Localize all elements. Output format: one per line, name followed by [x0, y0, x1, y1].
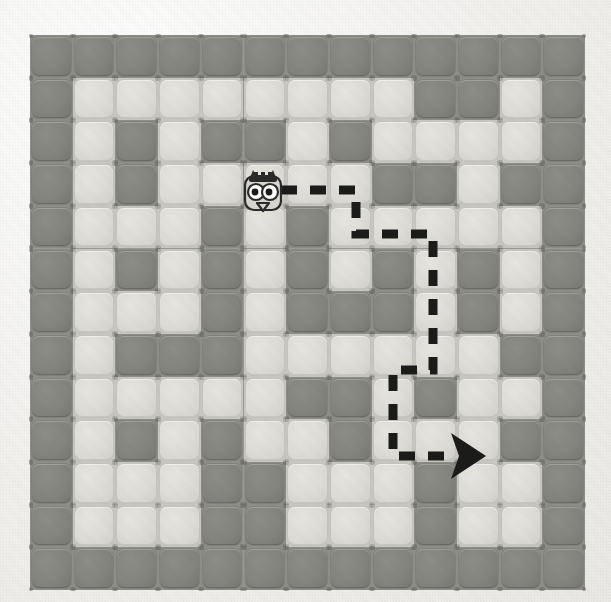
path-tile-r3-c7[interactable]	[329, 163, 372, 206]
path-tile-r3-c5[interactable]	[244, 163, 287, 206]
wall-tile-r12-c0[interactable]	[30, 547, 73, 590]
path-tile-r10-c2[interactable]	[115, 462, 158, 505]
wall-tile-r12-c11[interactable]	[500, 547, 543, 590]
wall-tile-r8-c7[interactable]	[329, 377, 372, 420]
path-tile-r4-c1[interactable]	[73, 206, 116, 249]
path-tile-r8-c10[interactable]	[457, 377, 500, 420]
path-tile-r4-c5[interactable]	[244, 206, 287, 249]
wall-tile-r0-c12[interactable]	[542, 35, 585, 78]
path-tile-r7-c1[interactable]	[73, 334, 116, 377]
wall-tile-r4-c6[interactable]	[286, 206, 329, 249]
path-tile-r10-c8[interactable]	[372, 462, 415, 505]
path-tile-r6-c3[interactable]	[158, 291, 201, 334]
path-tile-r9-c5[interactable]	[244, 419, 287, 462]
path-tile-r7-c6[interactable]	[286, 334, 329, 377]
path-tile-r5-c5[interactable]	[244, 249, 287, 292]
path-tile-r8-c8[interactable]	[372, 377, 415, 420]
wall-tile-r8-c0[interactable]	[30, 377, 73, 420]
path-tile-r1-c8[interactable]	[372, 78, 415, 121]
path-tile-r11-c2[interactable]	[115, 505, 158, 548]
path-tile-r3-c4[interactable]	[201, 163, 244, 206]
path-tile-r2-c10[interactable]	[457, 120, 500, 163]
wall-tile-r10-c9[interactable]	[414, 462, 457, 505]
path-tile-r2-c1[interactable]	[73, 120, 116, 163]
wall-tile-r2-c0[interactable]	[30, 120, 73, 163]
path-tile-r1-c6[interactable]	[286, 78, 329, 121]
wall-tile-r3-c2[interactable]	[115, 163, 158, 206]
wall-tile-r7-c12[interactable]	[542, 334, 585, 377]
path-tile-r5-c3[interactable]	[158, 249, 201, 292]
wall-tile-r9-c2[interactable]	[115, 419, 158, 462]
wall-tile-r12-c7[interactable]	[329, 547, 372, 590]
wall-tile-r1-c0[interactable]	[30, 78, 73, 121]
wall-tile-r12-c4[interactable]	[201, 547, 244, 590]
wall-tile-r7-c3[interactable]	[158, 334, 201, 377]
path-tile-r7-c5[interactable]	[244, 334, 287, 377]
path-tile-r10-c3[interactable]	[158, 462, 201, 505]
path-tile-r5-c9[interactable]	[414, 249, 457, 292]
wall-tile-r8-c9[interactable]	[414, 377, 457, 420]
wall-tile-r11-c12[interactable]	[542, 505, 585, 548]
wall-tile-r12-c6[interactable]	[286, 547, 329, 590]
wall-tile-r10-c0[interactable]	[30, 462, 73, 505]
path-tile-r7-c7[interactable]	[329, 334, 372, 377]
path-tile-r11-c10[interactable]	[457, 505, 500, 548]
path-tile-r11-c1[interactable]	[73, 505, 116, 548]
wall-tile-r5-c0[interactable]	[30, 249, 73, 292]
wall-tile-r0-c2[interactable]	[115, 35, 158, 78]
path-tile-r10-c1[interactable]	[73, 462, 116, 505]
wall-tile-r5-c10[interactable]	[457, 249, 500, 292]
path-tile-r9-c1[interactable]	[73, 419, 116, 462]
path-tile-r6-c11[interactable]	[500, 291, 543, 334]
wall-tile-r11-c0[interactable]	[30, 505, 73, 548]
path-tile-r1-c2[interactable]	[115, 78, 158, 121]
wall-tile-r10-c5[interactable]	[244, 462, 287, 505]
path-tile-r5-c11[interactable]	[500, 249, 543, 292]
wall-tile-r0-c8[interactable]	[372, 35, 415, 78]
path-tile-r6-c2[interactable]	[115, 291, 158, 334]
path-tile-r5-c7[interactable]	[329, 249, 372, 292]
wall-tile-r9-c12[interactable]	[542, 419, 585, 462]
path-tile-r11-c3[interactable]	[158, 505, 201, 548]
wall-tile-r0-c0[interactable]	[30, 35, 73, 78]
wall-tile-r9-c11[interactable]	[500, 419, 543, 462]
path-tile-r1-c1[interactable]	[73, 78, 116, 121]
path-tile-r2-c3[interactable]	[158, 120, 201, 163]
path-tile-r6-c9[interactable]	[414, 291, 457, 334]
wall-tile-r12-c3[interactable]	[158, 547, 201, 590]
path-tile-r9-c3[interactable]	[158, 419, 201, 462]
wall-tile-r12-c12[interactable]	[542, 547, 585, 590]
wall-tile-r0-c9[interactable]	[414, 35, 457, 78]
path-tile-r1-c3[interactable]	[158, 78, 201, 121]
wall-tile-r7-c11[interactable]	[500, 334, 543, 377]
wall-tile-r5-c6[interactable]	[286, 249, 329, 292]
wall-tile-r12-c9[interactable]	[414, 547, 457, 590]
wall-tile-r2-c5[interactable]	[244, 120, 287, 163]
wall-tile-r4-c12[interactable]	[542, 206, 585, 249]
wall-tile-r12-c10[interactable]	[457, 547, 500, 590]
path-tile-r9-c10[interactable]	[457, 419, 500, 462]
wall-tile-r12-c8[interactable]	[372, 547, 415, 590]
path-tile-r8-c4[interactable]	[201, 377, 244, 420]
wall-tile-r6-c0[interactable]	[30, 291, 73, 334]
wall-tile-r3-c12[interactable]	[542, 163, 585, 206]
path-tile-r3-c10[interactable]	[457, 163, 500, 206]
path-tile-r8-c5[interactable]	[244, 377, 287, 420]
path-tile-r2-c8[interactable]	[372, 120, 415, 163]
wall-tile-r0-c4[interactable]	[201, 35, 244, 78]
wall-tile-r0-c10[interactable]	[457, 35, 500, 78]
path-tile-r4-c7[interactable]	[329, 206, 372, 249]
wall-tile-r9-c0[interactable]	[30, 419, 73, 462]
path-tile-r8-c11[interactable]	[500, 377, 543, 420]
path-tile-r7-c9[interactable]	[414, 334, 457, 377]
path-tile-r10-c11[interactable]	[500, 462, 543, 505]
wall-tile-r11-c5[interactable]	[244, 505, 287, 548]
wall-tile-r9-c4[interactable]	[201, 419, 244, 462]
wall-tile-r10-c4[interactable]	[201, 462, 244, 505]
wall-tile-r6-c8[interactable]	[372, 291, 415, 334]
wall-tile-r2-c7[interactable]	[329, 120, 372, 163]
wall-tile-r6-c10[interactable]	[457, 291, 500, 334]
wall-tile-r4-c4[interactable]	[201, 206, 244, 249]
path-tile-r5-c1[interactable]	[73, 249, 116, 292]
path-tile-r1-c7[interactable]	[329, 78, 372, 121]
